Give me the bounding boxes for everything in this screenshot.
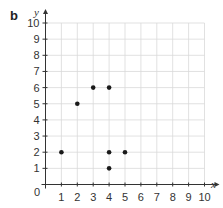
x-tick-label: 6: [138, 191, 144, 203]
y-axis-label: y: [33, 6, 39, 18]
x-axis-ticks: 12345678910: [58, 183, 210, 203]
y-tick-label: 4: [33, 114, 39, 126]
x-tick-label: 2: [74, 191, 80, 203]
x-tick-label: 10: [198, 191, 210, 203]
x-tick-label: 4: [106, 191, 112, 203]
data-point: [107, 85, 112, 90]
y-tick-label: 7: [33, 65, 39, 77]
y-tick-label: 9: [33, 33, 39, 45]
y-tick-label: 8: [33, 49, 39, 61]
y-tick-label: 1: [33, 162, 39, 174]
y-tick-label: 6: [33, 82, 39, 94]
y-tick-label: 10: [27, 17, 39, 29]
data-point: [107, 150, 112, 155]
x-tick-label: 1: [58, 191, 64, 203]
data-point: [107, 166, 112, 171]
origin-label: 0: [34, 186, 40, 198]
data-point: [91, 85, 96, 90]
x-tick-label: 8: [170, 191, 176, 203]
y-tick-label: 2: [33, 146, 39, 158]
data-point: [123, 150, 128, 155]
axes: [42, 9, 220, 189]
data-point: [75, 101, 80, 106]
x-tick-label: 3: [90, 191, 96, 203]
y-axis-arrow-icon: [43, 9, 48, 14]
grid-lines: [46, 23, 205, 185]
scatter-chart: b 12345678910 12345678910 0 x y: [0, 0, 223, 208]
x-tick-label: 7: [154, 191, 160, 203]
y-axis-ticks: 12345678910: [27, 17, 47, 174]
y-tick-label: 3: [33, 130, 39, 142]
y-tick-label: 5: [33, 98, 39, 110]
x-axis-label: x: [210, 178, 216, 190]
x-tick-label: 9: [186, 191, 192, 203]
x-tick-label: 5: [122, 191, 128, 203]
data-point: [59, 150, 64, 155]
panel-label: b: [10, 8, 18, 23]
